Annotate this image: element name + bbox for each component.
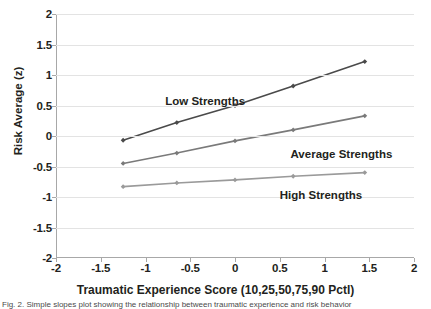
data-point-marker — [291, 84, 296, 89]
data-point-marker — [174, 151, 179, 156]
data-point-marker — [174, 120, 179, 125]
data-point-marker — [233, 138, 238, 143]
x-axis-title: Traumatic Experience Score (10,25,50,75,… — [0, 283, 431, 297]
y-tick-label: 1.5 — [37, 39, 52, 51]
gridline — [56, 136, 414, 137]
y-tick-mark — [52, 136, 56, 137]
x-tick-label: -1.5 — [91, 262, 110, 274]
y-tick-mark — [52, 167, 56, 168]
x-tick-label: 2 — [411, 262, 417, 274]
gridline — [56, 167, 414, 168]
series-label-low-strengths: Low Strengths — [165, 95, 245, 107]
x-tick-label: -0.5 — [181, 262, 200, 274]
y-tick-mark — [52, 106, 56, 107]
data-point-marker — [233, 178, 238, 183]
figure-caption: Fig. 2. Simple slopes plot showing the r… — [2, 300, 431, 309]
x-axis-tick-labels: -2-1.5-1-0.500.511.52 — [56, 262, 414, 278]
data-point-marker — [362, 170, 367, 175]
gridline — [56, 14, 414, 15]
plot-area: Low StrengthsAverage StrengthsHigh Stren… — [56, 14, 414, 258]
data-point-marker — [291, 128, 296, 133]
series-label-average-strengths: Average Strengths — [290, 148, 392, 160]
gridline — [56, 228, 414, 229]
y-tick-label: -1 — [42, 191, 52, 203]
y-tick-label: -1.5 — [33, 222, 52, 234]
data-point-marker — [174, 181, 179, 186]
data-point-marker — [121, 184, 126, 189]
x-tick-label: 1 — [321, 262, 327, 274]
data-point-marker — [121, 161, 126, 166]
gridline — [56, 75, 414, 76]
data-point-marker — [121, 138, 126, 143]
y-tick-mark — [52, 14, 56, 15]
y-tick-label: -0.5 — [33, 161, 52, 173]
data-point-marker — [362, 59, 367, 64]
x-tick-label: -2 — [51, 262, 61, 274]
data-point-marker — [362, 113, 367, 118]
y-tick-mark — [52, 228, 56, 229]
data-point-marker — [291, 174, 296, 179]
series-line — [123, 173, 365, 187]
gridline — [56, 45, 414, 46]
x-tick-label: -1 — [141, 262, 151, 274]
y-axis-tick-labels: -2-1.5-1-0.500.511.52 — [14, 14, 52, 258]
x-tick-label: 0 — [232, 262, 238, 274]
x-tick-label: 1.5 — [362, 262, 377, 274]
x-tick-label: 0.5 — [272, 262, 287, 274]
y-tick-label: 0.5 — [37, 100, 52, 112]
y-tick-mark — [52, 75, 56, 76]
y-tick-mark — [52, 45, 56, 46]
y-tick-mark — [52, 197, 56, 198]
series-label-high-strengths: High Strengths — [280, 189, 362, 201]
